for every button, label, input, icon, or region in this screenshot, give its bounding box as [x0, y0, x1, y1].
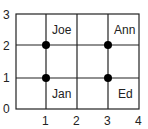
label-joe: Joe	[52, 23, 72, 37]
x-tick-2: 2	[73, 114, 80, 128]
grid-diagram: 0 1 2 3 1 2 3 4 Joe Ann Jan Ed	[0, 0, 148, 129]
y-tick-0: 0	[3, 102, 10, 116]
point-joe	[42, 41, 50, 49]
y-tick-1: 1	[3, 71, 10, 85]
x-tick-3: 3	[104, 114, 111, 128]
x-tick-4: 4	[135, 114, 142, 128]
point-jan	[42, 74, 50, 82]
y-tick-3: 3	[3, 8, 10, 22]
point-ann	[104, 41, 112, 49]
y-tick-2: 2	[3, 39, 10, 53]
label-jan: Jan	[52, 87, 71, 101]
point-ed	[104, 74, 112, 82]
x-tick-1: 1	[42, 114, 49, 128]
label-ann: Ann	[114, 23, 135, 37]
label-ed: Ed	[118, 87, 133, 101]
